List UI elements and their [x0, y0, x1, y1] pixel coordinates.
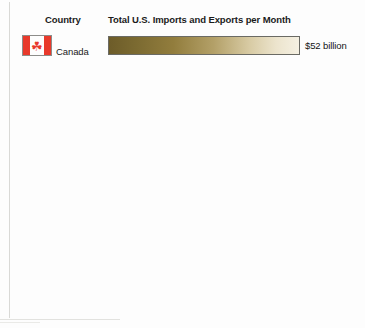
table-row: ☘Canada$52 billion [0, 34, 365, 63]
column-header-country: Country [45, 14, 81, 25]
bar-chart: Country Total U.S. Imports and Exports p… [0, 0, 365, 328]
country-label: Canada [56, 47, 89, 58]
flag-canada-icon: ☘ [22, 35, 52, 56]
bottom-divider-rule [0, 319, 120, 320]
value-bar [108, 36, 300, 55]
column-header-metric: Total U.S. Imports and Exports per Month [108, 14, 291, 25]
value-label: $52 billion [305, 40, 347, 51]
bottom-divider-rule-secondary [0, 322, 40, 323]
